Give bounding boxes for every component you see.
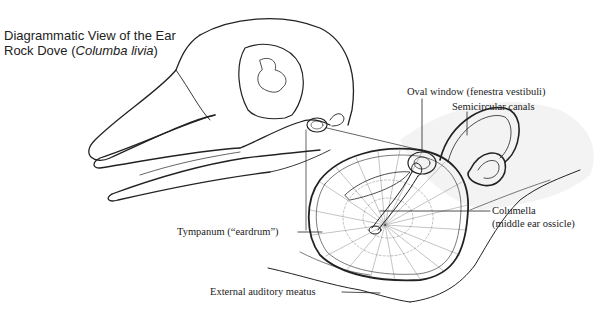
label-semicircular-canals: Semicircular canals xyxy=(452,101,535,113)
ear-illustration xyxy=(0,0,611,314)
label-columella: Columella xyxy=(492,205,536,217)
label-oval-window: Oval window (fenestra vestibuli) xyxy=(407,86,546,98)
skull-drawing xyxy=(89,19,354,201)
label-columella-description: (middle ear ossicle) xyxy=(492,218,575,230)
label-tympanum: Tympanum (“eardrum”) xyxy=(177,226,279,238)
label-external-auditory-meatus: External auditory meatus xyxy=(210,286,316,298)
stipple-shading xyxy=(400,102,594,210)
